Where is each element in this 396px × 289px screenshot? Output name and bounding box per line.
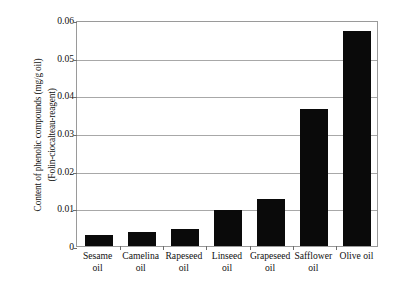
y-axis-tick-label: 0.04 bbox=[57, 91, 74, 101]
x-axis-tick-label: Olive oil bbox=[331, 250, 382, 262]
y-axis-tick-label: 0.01 bbox=[57, 204, 74, 214]
bar-chart: Content of phenolic compounds (mg/g oil)… bbox=[0, 0, 396, 289]
y-axis-tick-label: 0.06 bbox=[57, 16, 74, 26]
y-axis-tick-label: 0.02 bbox=[57, 167, 74, 177]
x-axis-tick-label-line: oil bbox=[288, 262, 339, 274]
y-axis-tick-label: 0.05 bbox=[57, 54, 74, 64]
bar bbox=[300, 109, 328, 246]
bar bbox=[85, 235, 113, 246]
bar-series bbox=[77, 22, 377, 246]
bar bbox=[257, 199, 285, 246]
bar bbox=[214, 210, 242, 246]
bar bbox=[171, 229, 199, 246]
x-axis-tick-labels: SesameoilCamelinaoilRapeseedoilLinseedoi… bbox=[76, 250, 378, 286]
plot-area bbox=[76, 21, 378, 247]
y-axis-tick-labels: 00.010.020.030.040.050.06 bbox=[46, 0, 74, 289]
bar bbox=[343, 31, 371, 246]
y-axis-tick-label: 0.03 bbox=[57, 129, 74, 139]
y-axis-title-line-1: Content of phenolic compounds (mg/g oil) bbox=[31, 22, 45, 248]
bar bbox=[128, 232, 156, 246]
x-axis-tick-label-line: Olive oil bbox=[331, 250, 382, 262]
y-axis-tick bbox=[73, 248, 77, 249]
